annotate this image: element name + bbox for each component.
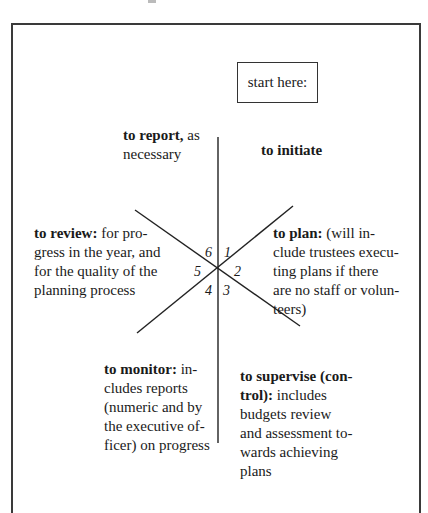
segment-number-4: 4 (205, 284, 212, 298)
segment-number-1: 1 (224, 246, 231, 260)
segment-monitor: to monitor: in- cludes reports (numeric … (104, 360, 210, 455)
segment-supervise: to supervise (con- trol): includes budge… (240, 367, 353, 481)
segment-number-5: 5 (194, 265, 201, 279)
segment-review: to review: for pro- gress in the year, a… (34, 224, 160, 300)
segment-number-2: 2 (234, 265, 241, 279)
segment-plan-title: to plan: (273, 225, 323, 241)
segment-monitor-title: to monitor: (104, 361, 177, 377)
segment-initiate: to initiate (261, 141, 322, 160)
segment-supervise-title: to supervise (con- (240, 368, 353, 384)
segment-report-title: to report, (123, 127, 184, 143)
segment-plan: to plan: (will in- clude trustees execu-… (273, 224, 399, 319)
segment-number-6: 6 (205, 246, 212, 260)
segment-initiate-title: to initiate (261, 142, 322, 158)
segment-report: to report, as necessary (123, 126, 200, 164)
segment-review-title: to review: (34, 225, 97, 241)
segment-number-3: 3 (223, 284, 230, 298)
